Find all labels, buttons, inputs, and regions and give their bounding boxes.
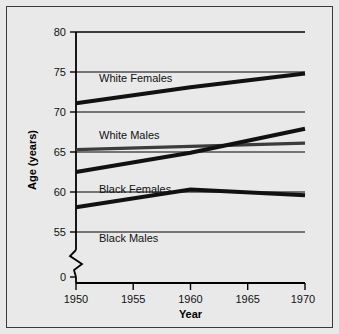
- x-tick-label-1960: 1960: [178, 293, 202, 305]
- x-tick-label-1955: 1955: [121, 293, 145, 305]
- y-tick-label-55: 55: [54, 226, 66, 238]
- y-tick-label-0: 0: [60, 271, 66, 283]
- chart-figure: 80 75 70 65 60 55 0 1950 1955 1960 1965 …: [0, 0, 339, 334]
- series-label-black-females: Black Females: [99, 183, 172, 195]
- y-tick-label-75: 75: [54, 66, 66, 78]
- x-tick-label-1970: 1970: [291, 293, 315, 305]
- x-tick-label-1965: 1965: [235, 293, 259, 305]
- line-chart-plot: 80 75 70 65 60 55 0 1950 1955 1960 1965 …: [0, 0, 339, 334]
- y-tick-label-60: 60: [54, 186, 66, 198]
- y-axis-break-icon: [70, 250, 82, 277]
- series-label-black-males: Black Males: [99, 232, 159, 244]
- x-axis-ticks: [76, 283, 305, 290]
- y-tick-label-65: 65: [54, 146, 66, 158]
- y-tick-label-80: 80: [54, 26, 66, 38]
- y-tick-label-70: 70: [54, 106, 66, 118]
- x-tick-label-1950: 1950: [64, 293, 88, 305]
- series-line-white-males: [76, 143, 305, 149]
- x-axis-title: Year: [179, 308, 203, 320]
- series-label-white-males: White Males: [99, 129, 160, 141]
- y-axis-title: Age (years): [26, 130, 38, 190]
- series-label-white-females: White Females: [99, 72, 173, 84]
